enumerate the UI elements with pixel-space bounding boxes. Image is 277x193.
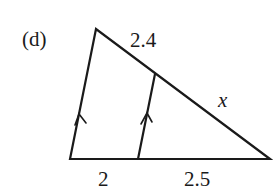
part-label: (d) xyxy=(22,27,47,51)
label-x: x xyxy=(217,88,228,112)
label-base-right: 2.5 xyxy=(184,167,210,191)
triangle-diagram: (d) 2.4 x 2 2.5 xyxy=(0,0,277,193)
label-top-side: 2.4 xyxy=(130,28,157,52)
triangle-outline xyxy=(70,29,270,159)
label-base-left: 2 xyxy=(98,167,109,191)
parallel-segment xyxy=(138,74,155,159)
